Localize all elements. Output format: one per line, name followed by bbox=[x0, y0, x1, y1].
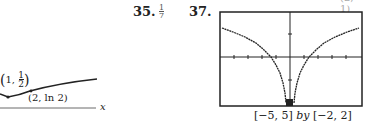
calculator-graph bbox=[219, 11, 364, 108]
point-1-label: (1, 12) bbox=[0, 71, 29, 88]
problem-37-number: 37. bbox=[189, 4, 212, 19]
problem-35-answer: 17 bbox=[159, 4, 164, 19]
problem-35-number: 35. bbox=[133, 4, 156, 19]
point-2-label: (2, ln 2) bbox=[28, 92, 68, 103]
left-graph bbox=[0, 0, 110, 125]
x-axis-label: x bbox=[100, 101, 106, 112]
graph-window-caption: [−5, 5] by [−2, 2] bbox=[254, 109, 352, 122]
asymptote-marker bbox=[286, 99, 293, 106]
graph-window bbox=[220, 12, 362, 106]
point-1-marker bbox=[6, 95, 9, 98]
